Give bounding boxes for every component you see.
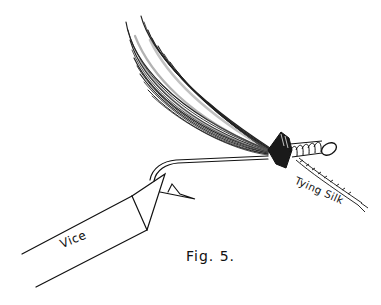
vice [22, 174, 165, 287]
wing-feather [126, 16, 270, 155]
hook [150, 156, 268, 199]
hook-eye [319, 140, 338, 158]
figure-caption: Fig. 5. [186, 248, 235, 264]
fly-head [268, 132, 292, 168]
silk-wraps [290, 141, 322, 157]
